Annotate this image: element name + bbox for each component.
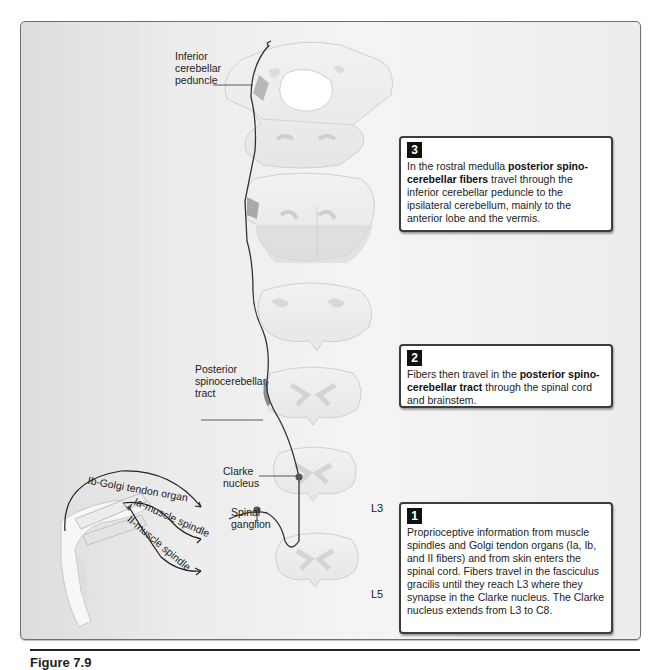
step-3-badge: 3 (407, 142, 422, 158)
step-3-box: 3 In the rostral medulla posterior spino… (399, 136, 613, 232)
caption-rule (30, 649, 640, 651)
label-level-l5: L5 (371, 588, 383, 600)
step-2-box: 2 Fibers then travel in the posterior sp… (399, 344, 613, 408)
figure-caption: Figure 7.9 (30, 655, 91, 670)
step-2-badge: 2 (407, 350, 422, 366)
medulla-caudal-section (245, 173, 375, 263)
muscle-limb-illustration (61, 493, 151, 627)
label-line: Clarke (223, 465, 259, 477)
step-2-text: Fibers then travel in the posterior spin… (407, 368, 605, 407)
label-clarke-nucleus: Clarke nucleus (223, 465, 259, 489)
label-line: ganglion (231, 518, 271, 530)
step-1-box: 1 Proprioceptive information from muscle… (399, 502, 613, 634)
l3-cord-section (273, 447, 356, 501)
cervical-cord-section (258, 283, 372, 351)
label-level-l3: L3 (371, 502, 383, 514)
label-line: tract (195, 387, 266, 399)
text-run: Fibers then travel in the (407, 368, 520, 380)
label-inferior-cerebellar-peduncle: Inferior cerebellar peduncle (175, 50, 221, 86)
step-1-text: Proprioceptive information from muscle s… (407, 526, 605, 617)
diagram-panel: Inferior cerebellar peduncle Posterior s… (20, 21, 641, 640)
medulla-rostral-section (225, 42, 393, 168)
label-posterior-spinocerebellar-tract: Posterior spinocerebellar tract (195, 363, 266, 399)
label-line: Spinal (231, 506, 271, 518)
text-run: In the rostral medulla (407, 160, 508, 172)
label-line: spinocerebellar (195, 375, 266, 387)
step-3-text: In the rostral medulla posterior spino-c… (407, 160, 605, 225)
label-line: cerebellar (175, 62, 221, 74)
label-line: Inferior (175, 50, 221, 62)
thoracic-cord-section (265, 367, 361, 425)
label-line: peduncle (175, 74, 221, 86)
l5-cord-section (276, 533, 358, 587)
label-line: Posterior (195, 363, 266, 375)
step-1-badge: 1 (407, 508, 422, 524)
label-spinal-ganglion: Spinal ganglion (231, 506, 271, 530)
label-line: nucleus (223, 477, 259, 489)
clarke-nucleus-dot (296, 474, 303, 481)
